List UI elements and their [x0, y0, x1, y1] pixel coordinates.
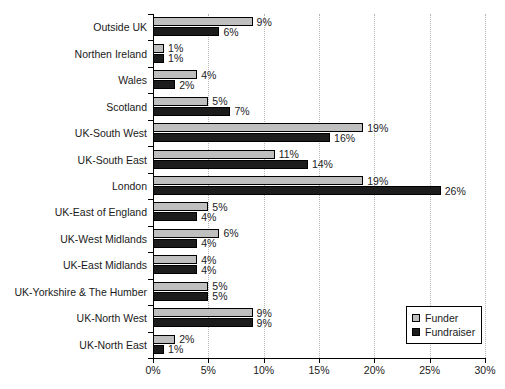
bar-value-label: 4% — [201, 264, 216, 276]
category-label: UK-East Midlands — [5, 259, 153, 271]
y-axis-line — [153, 14, 154, 358]
x-tick-label: 25% — [419, 364, 440, 376]
bar-value-label: 1% — [168, 343, 183, 355]
bar-value-label: 19% — [367, 122, 388, 134]
bar-value-label: 9% — [257, 317, 272, 329]
category-label: Northen Ireland — [5, 48, 153, 60]
bar-funder — [153, 176, 363, 185]
x-tick-mark — [430, 358, 431, 363]
bar-funder — [153, 44, 164, 53]
bar-fundraiser — [153, 318, 253, 327]
bar-funder — [153, 308, 253, 317]
bar-value-label: 6% — [223, 227, 238, 239]
bar-fundraiser — [153, 186, 441, 195]
bar-value-label: 16% — [334, 132, 355, 144]
bar-value-label: 26% — [445, 185, 466, 197]
x-tick-label: 5% — [201, 364, 216, 376]
category-label: UK-East of England — [5, 206, 153, 218]
category-label: London — [5, 180, 153, 192]
bar-funder — [153, 282, 208, 291]
bar-fundraiser — [153, 107, 230, 116]
bar-fundraiser — [153, 345, 164, 354]
x-tick-mark — [153, 358, 154, 363]
x-tick-label: 30% — [474, 364, 495, 376]
bar-fundraiser — [153, 239, 197, 248]
bar-fundraiser — [153, 292, 208, 301]
x-tick-label: 20% — [364, 364, 385, 376]
category-label: UK-North East — [5, 339, 153, 351]
category-labels: Outside UKNorthen IrelandWalesScotlandUK… — [0, 0, 153, 389]
gridline — [485, 14, 486, 358]
bar-funder — [153, 202, 208, 211]
legend-item-funder[interactable]: Funder — [412, 311, 475, 325]
bar-fundraiser — [153, 54, 164, 63]
bar-value-label: 2% — [179, 79, 194, 91]
legend-swatch-fundraiser-icon — [412, 328, 420, 336]
bar-funder — [153, 255, 197, 264]
bar-value-label: 1% — [168, 52, 183, 64]
x-tick-mark — [264, 358, 265, 363]
bar-value-label: 14% — [312, 158, 333, 170]
category-label: Outside UK — [5, 21, 153, 33]
bar-value-label: 11% — [279, 148, 299, 160]
x-tick-mark — [485, 358, 486, 363]
x-tick-label: 15% — [308, 364, 329, 376]
category-label: UK-West Midlands — [5, 233, 153, 245]
bar-value-label: 5% — [212, 290, 227, 302]
chart-legend: Funder Fundraiser — [406, 306, 482, 344]
bar-funder — [153, 97, 208, 106]
bar-value-label: 4% — [201, 211, 216, 223]
bar-value-label: 19% — [367, 175, 388, 187]
bar-fundraiser — [153, 265, 197, 274]
x-tick-mark — [208, 358, 209, 363]
bar-fundraiser — [153, 212, 197, 221]
legend-label-funder: Funder — [425, 312, 458, 324]
bar-value-label: 6% — [223, 26, 238, 38]
x-tick-mark — [374, 358, 375, 363]
legend-item-fundraiser[interactable]: Fundraiser — [412, 325, 475, 339]
bar-value-label: 4% — [201, 69, 216, 81]
bar-value-label: 7% — [234, 105, 249, 117]
bar-fundraiser — [153, 80, 175, 89]
x-tick-label: 10% — [253, 364, 274, 376]
category-label: Scotland — [5, 101, 153, 113]
category-label: UK-South West — [5, 127, 153, 139]
bar-value-label: 4% — [201, 237, 216, 249]
bar-funder — [153, 123, 363, 132]
bar-value-label: 9% — [257, 16, 272, 28]
bar-fundraiser — [153, 160, 308, 169]
category-label: Wales — [5, 74, 153, 86]
bar-fundraiser — [153, 133, 330, 142]
legend-swatch-funder-icon — [412, 314, 420, 322]
bar-chart: 9%6%1%1%4%2%5%7%19%16%11%14%19%26%5%4%6%… — [0, 0, 505, 389]
bar-funder — [153, 150, 275, 159]
legend-label-fundraiser: Fundraiser — [425, 326, 475, 338]
bar-value-label: 5% — [212, 95, 227, 107]
bar-fundraiser — [153, 27, 219, 36]
category-label: UK-South East — [5, 154, 153, 166]
category-label: UK-North West — [5, 312, 153, 324]
category-label: UK-Yorkshire & The Humber — [5, 286, 153, 298]
x-tick-mark — [319, 358, 320, 363]
